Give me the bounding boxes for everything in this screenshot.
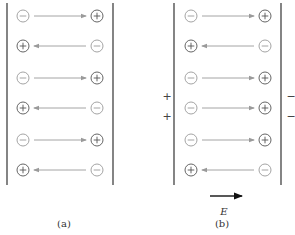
negative-charge-icon (17, 72, 29, 84)
negative-charge-icon (17, 10, 29, 22)
field-label: E (220, 206, 227, 217)
dipole (17, 164, 103, 176)
negative-charge-icon (91, 102, 103, 114)
negative-charge-icon (185, 134, 197, 146)
dipole (17, 134, 103, 146)
positive-charge-icon (91, 72, 103, 84)
dielectric-diagram (0, 0, 295, 235)
panel-b-caption: (b) (215, 218, 229, 229)
negative-charge-icon (185, 72, 197, 84)
positive-charge-icon (185, 164, 197, 176)
negative-charge-icon (259, 164, 271, 176)
left-plate-charge: + (162, 90, 171, 103)
negative-charge-icon (17, 134, 29, 146)
negative-charge-icon (259, 40, 271, 52)
negative-charge-icon (91, 40, 103, 52)
dipole (17, 72, 103, 84)
positive-charge-icon (185, 40, 197, 52)
positive-charge-icon (259, 10, 271, 22)
dipole (185, 164, 271, 176)
positive-charge-icon (259, 72, 271, 84)
panel-a (7, 3, 113, 185)
positive-charge-icon (17, 40, 29, 52)
panel-b (174, 3, 281, 185)
dipole (17, 102, 103, 114)
negative-charge-icon (185, 10, 197, 22)
positive-charge-icon (91, 10, 103, 22)
positive-charge-icon (91, 134, 103, 146)
dipole (185, 10, 271, 22)
positive-charge-icon (17, 164, 29, 176)
negative-charge-icon (91, 164, 103, 176)
dipole (185, 40, 271, 52)
dipole (17, 10, 103, 22)
left-plate-charge: + (162, 110, 171, 123)
dipole (185, 72, 271, 84)
right-plate-charge: − (286, 110, 295, 123)
positive-charge-icon (259, 102, 271, 114)
right-plate-charge: − (286, 90, 295, 103)
positive-charge-icon (17, 102, 29, 114)
dipole (185, 134, 271, 146)
dipole (17, 40, 103, 52)
panel-a-caption: (a) (57, 218, 71, 229)
positive-charge-icon (259, 134, 271, 146)
dipole (185, 102, 271, 114)
negative-charge-icon (185, 102, 197, 114)
